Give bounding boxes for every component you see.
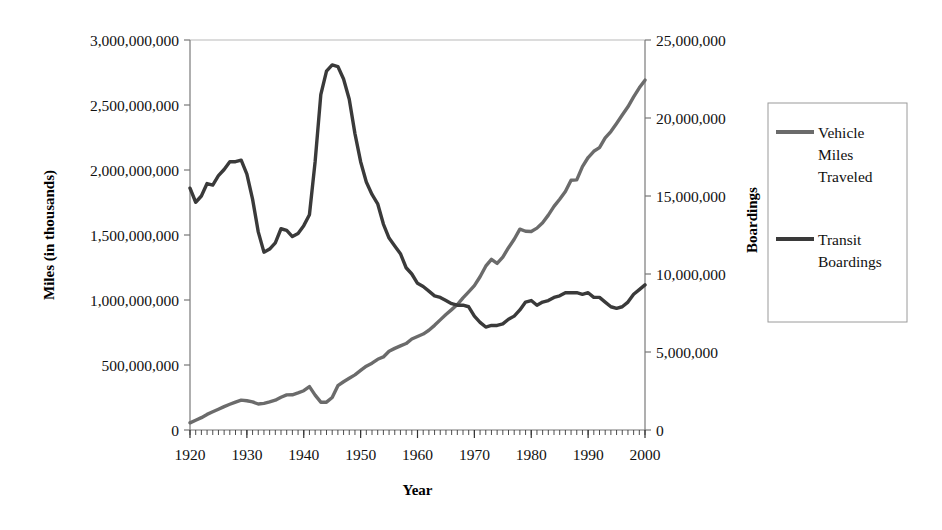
- left-axis-tick-label: 1,500,000,000: [90, 227, 179, 244]
- chart-figure: 0500,000,0001,000,000,0001,500,000,0002,…: [0, 0, 942, 530]
- left-axis-tick-label: 2,500,000,000: [90, 97, 179, 114]
- x-axis-tick-label: 1940: [288, 446, 319, 463]
- y-axis-title: Miles (in thousands): [41, 170, 58, 300]
- x-axis-tick-label: 1980: [516, 446, 547, 463]
- x-axis-tick-label: 1930: [231, 446, 262, 463]
- right-axis-tick-label: 5,000,000: [656, 344, 718, 361]
- x-axis-tick-label: 1990: [573, 446, 604, 463]
- right-axis-tick-label: 20,000,000: [656, 110, 726, 127]
- right-axis-tick-label: 25,000,000: [656, 32, 726, 49]
- left-axis-tick-label: 1,000,000,000: [90, 292, 179, 309]
- dual-axis-line-chart: 0500,000,0001,000,000,0001,500,000,0002,…: [0, 0, 942, 530]
- legend-label-1: Traveled: [818, 168, 873, 185]
- y2-axis-title: Boardings: [744, 187, 760, 253]
- x-axis-tick-label: 1960: [402, 446, 433, 463]
- x-axis-tick-label: 1970: [459, 446, 490, 463]
- legend-label-1: Vehicle: [818, 124, 865, 141]
- x-axis-tick-label: 2000: [630, 446, 661, 463]
- x-axis-tick-label: 1920: [175, 446, 206, 463]
- legend-label-2: Boardings: [818, 253, 882, 270]
- left-axis-tick-label: 500,000,000: [102, 357, 180, 374]
- left-axis-tick-label: 0: [171, 422, 179, 439]
- series-line-vehicle-miles-traveled: [190, 80, 645, 423]
- x-axis-tick-label: 1950: [345, 446, 376, 463]
- series-line-transit-boardings: [190, 65, 645, 327]
- left-axis-tick-label: 3,000,000,000: [90, 32, 179, 49]
- legend-label-2: Transit: [818, 231, 862, 248]
- right-axis-tick-label: 10,000,000: [656, 266, 726, 283]
- x-axis-title: Year: [403, 482, 433, 498]
- legend-label-1: Miles: [818, 146, 853, 163]
- left-axis-tick-label: 2,000,000,000: [90, 162, 179, 179]
- right-axis-tick-label: 15,000,000: [656, 188, 726, 205]
- right-axis-tick-label: 0: [656, 422, 664, 439]
